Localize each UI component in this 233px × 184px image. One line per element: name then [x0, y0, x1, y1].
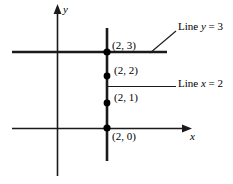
x-axis-label: x [190, 131, 195, 142]
y-axis-label: y [63, 4, 68, 15]
annotation-line-y-equals-3: Line y = 3 [178, 21, 223, 32]
point-2-1 [104, 100, 111, 107]
coordinate-plane-figure: (2, 3) (2, 2) (2, 1) (2, 0) y x Line y =… [0, 0, 233, 184]
point-label-2-0: (2, 0) [112, 131, 136, 142]
y-axis-arrowhead [54, 4, 62, 14]
point-label-2-2: (2, 2) [114, 65, 138, 76]
annotation-x2-prefix: Line [178, 77, 201, 89]
y-axis [54, 4, 62, 176]
annotation-line-x-equals-2: Line x = 2 [178, 78, 223, 89]
annotation-y3-prefix: Line [178, 20, 201, 32]
point-label-2-1: (2, 1) [114, 92, 138, 103]
point-label-2-3: (2, 3) [112, 40, 136, 51]
annotation-x2-equation: = 2 [206, 77, 223, 89]
annotation-y3-equation: = 3 [206, 20, 223, 32]
point-2-3 [103, 48, 110, 55]
point-2-0 [103, 124, 110, 131]
x-axis [12, 125, 192, 133]
leader-line-y3 [150, 31, 176, 53]
point-2-2 [104, 73, 111, 80]
